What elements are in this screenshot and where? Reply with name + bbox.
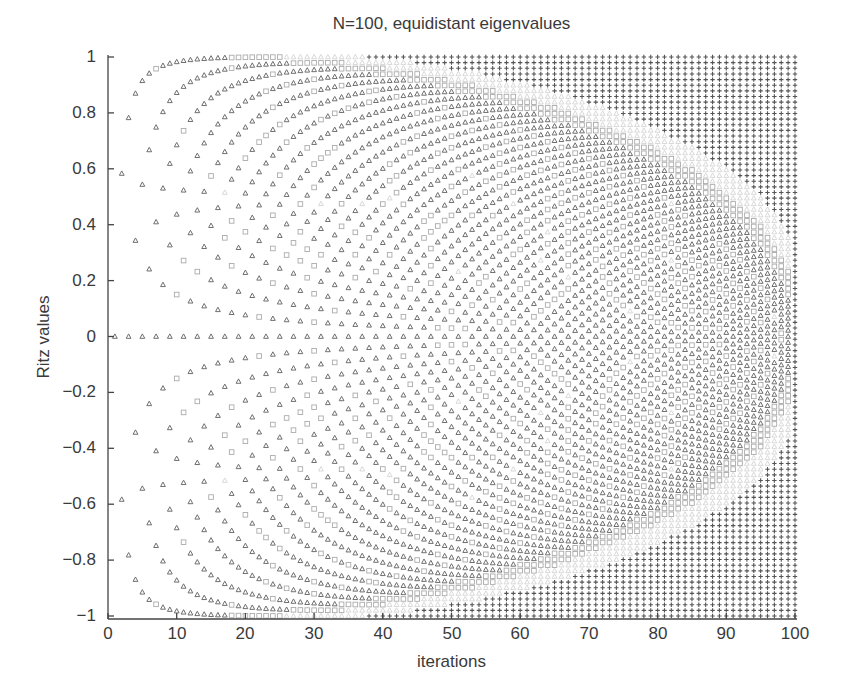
plus-marker bbox=[649, 89, 653, 93]
plus-marker bbox=[607, 586, 611, 590]
triangle-marker bbox=[511, 442, 516, 446]
triangle-marker bbox=[587, 328, 592, 332]
faint-triangle-marker bbox=[511, 467, 516, 471]
square-marker bbox=[765, 253, 770, 258]
triangle-marker bbox=[532, 542, 537, 546]
triangle-marker bbox=[291, 599, 296, 603]
plus-marker bbox=[580, 614, 584, 618]
triangle-marker bbox=[463, 450, 468, 454]
triangle-marker bbox=[435, 562, 440, 566]
plus-marker bbox=[552, 580, 556, 584]
faint-triangle-marker bbox=[456, 269, 461, 273]
plus-marker bbox=[697, 586, 701, 590]
triangle-marker bbox=[353, 298, 358, 302]
plus-marker bbox=[710, 574, 714, 578]
plus-marker bbox=[655, 597, 659, 601]
square-marker bbox=[786, 281, 791, 286]
plus-marker bbox=[504, 72, 508, 76]
triangle-marker bbox=[532, 550, 537, 554]
plus-marker bbox=[697, 591, 701, 595]
triangle-marker bbox=[264, 559, 269, 563]
plus-marker bbox=[758, 139, 762, 143]
triangle-marker bbox=[394, 85, 399, 89]
faint-triangle-marker bbox=[655, 128, 660, 132]
triangle-marker bbox=[703, 238, 708, 242]
plus-marker bbox=[786, 111, 790, 115]
plus-marker bbox=[559, 55, 563, 59]
triangle-marker bbox=[188, 551, 193, 555]
triangle-marker bbox=[257, 465, 262, 469]
square-marker bbox=[332, 523, 337, 528]
plus-marker bbox=[717, 518, 721, 522]
triangle-marker bbox=[765, 310, 770, 314]
triangle-marker bbox=[408, 503, 413, 507]
triangle-marker bbox=[532, 202, 537, 206]
plus-marker bbox=[793, 501, 797, 505]
plus-marker bbox=[635, 106, 639, 110]
triangle-marker bbox=[284, 503, 289, 507]
square-marker bbox=[209, 174, 214, 179]
faint-triangle-marker bbox=[504, 83, 509, 87]
triangle-marker bbox=[298, 493, 303, 497]
triangle-marker bbox=[641, 163, 646, 167]
triangle-marker bbox=[401, 514, 406, 518]
triangle-marker bbox=[380, 345, 385, 349]
triangle-marker bbox=[696, 372, 701, 376]
triangle-marker bbox=[209, 56, 214, 60]
triangle-marker bbox=[422, 288, 427, 292]
triangle-marker bbox=[532, 340, 537, 344]
triangle-marker bbox=[545, 353, 550, 357]
triangle-marker bbox=[779, 299, 784, 303]
square-marker bbox=[456, 83, 461, 88]
square-marker bbox=[758, 286, 763, 291]
faint-triangle-marker bbox=[497, 83, 502, 87]
plus-marker bbox=[690, 557, 694, 561]
plus-marker bbox=[758, 478, 762, 482]
square-marker bbox=[271, 388, 276, 393]
plus-marker bbox=[758, 77, 762, 81]
faint-triangle-marker bbox=[291, 613, 296, 617]
square-marker bbox=[518, 541, 523, 546]
square-marker bbox=[697, 173, 702, 178]
faint-triangle-marker bbox=[346, 608, 351, 612]
faint-triangle-marker bbox=[758, 207, 763, 211]
triangle-marker bbox=[710, 354, 715, 358]
triangle-marker bbox=[470, 381, 475, 385]
triangle-marker bbox=[456, 121, 461, 125]
triangle-marker bbox=[442, 234, 447, 238]
square-marker bbox=[717, 287, 722, 292]
plus-marker bbox=[772, 603, 776, 607]
triangle-marker bbox=[703, 268, 708, 272]
triangle-marker bbox=[696, 232, 701, 236]
square-marker bbox=[408, 286, 413, 291]
triangle-marker bbox=[655, 301, 660, 305]
plus-marker bbox=[745, 156, 749, 160]
triangle-marker bbox=[566, 460, 571, 464]
triangle-marker bbox=[765, 409, 770, 413]
plus-marker bbox=[614, 608, 618, 612]
plus-marker bbox=[731, 608, 735, 612]
plus-marker bbox=[765, 478, 769, 482]
plus-marker bbox=[772, 151, 776, 155]
triangle-marker bbox=[394, 582, 399, 586]
plus-marker bbox=[594, 100, 598, 104]
faint-triangle-marker bbox=[683, 150, 688, 154]
triangle-marker bbox=[607, 428, 612, 432]
triangle-marker bbox=[641, 261, 646, 265]
square-marker bbox=[257, 140, 262, 145]
triangle-marker bbox=[422, 481, 427, 485]
faint-triangle-marker bbox=[731, 489, 736, 493]
plus-marker bbox=[642, 111, 646, 115]
square-marker bbox=[566, 241, 571, 246]
y-tick-label: −0.2 bbox=[62, 382, 96, 402]
triangle-marker bbox=[284, 350, 289, 354]
faint-triangle-marker bbox=[628, 540, 633, 544]
faint-triangle-marker bbox=[765, 207, 770, 211]
triangle-marker bbox=[408, 180, 413, 184]
square-marker bbox=[525, 100, 530, 105]
plus-marker bbox=[745, 569, 749, 573]
faint-triangle-marker bbox=[593, 105, 598, 109]
triangle-marker bbox=[545, 253, 550, 257]
triangle-marker bbox=[188, 57, 193, 61]
triangle-marker bbox=[518, 209, 523, 213]
